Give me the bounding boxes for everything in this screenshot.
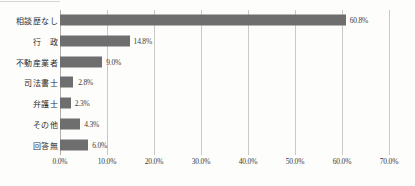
- bar-5: [60, 118, 80, 129]
- x-axis-tick-50: 50.0%: [286, 157, 304, 166]
- bar-row: 4.3%: [60, 114, 389, 135]
- x-axis-tick-labels: 0.0% 10.0% 20.0% 30.0% 40.0% 50.0% 60.0%…: [0, 157, 415, 171]
- chart-figure: 相談歴なし 行 政 不動産業者 司法書士 弁護士 その他 回答無: [0, 0, 415, 186]
- bar-value-4: 2.3%: [75, 99, 90, 108]
- bar-value-1: 14.8%: [134, 37, 152, 46]
- bar-3: [60, 77, 73, 88]
- bar-value-5: 4.3%: [84, 119, 99, 128]
- bar-row: 2.8%: [60, 72, 389, 93]
- bar-6: [60, 139, 88, 150]
- y-axis-tick-row: その他: [0, 114, 58, 135]
- x-axis-tick-20: 20.0%: [145, 157, 163, 166]
- x-axis-tick-30: 30.0%: [192, 157, 210, 166]
- x-axis-tick-60: 60.0%: [333, 157, 351, 166]
- scan-artifact-line: [0, 1, 60, 2]
- x-axis-tick-70: 70.0%: [380, 157, 398, 166]
- y-axis-label-1: 行 政: [2, 36, 58, 47]
- bar-4: [60, 98, 71, 109]
- bar-row: 2.3%: [60, 93, 389, 114]
- y-axis-label-6: 回答無: [2, 139, 58, 150]
- bar-value-0: 60.8%: [350, 16, 368, 25]
- x-axis-tick-10: 10.0%: [98, 157, 116, 166]
- y-axis-category-labels: 相談歴なし 行 政 不動産業者 司法書士 弁護士 その他 回答無: [0, 10, 58, 155]
- bar-row: 60.8%: [60, 10, 389, 31]
- y-axis-label-5: その他: [2, 118, 58, 129]
- y-axis-tick-row: 相談歴なし: [0, 10, 58, 31]
- y-axis-label-0: 相談歴なし: [2, 15, 58, 26]
- bar-1: [60, 36, 130, 47]
- bar-value-3: 2.8%: [78, 78, 93, 87]
- y-axis-tick-row: 司法書士: [0, 72, 58, 93]
- bar-row: 9.0%: [60, 51, 389, 72]
- y-axis-tick-row: 行 政: [0, 31, 58, 52]
- bar-row: 14.8%: [60, 31, 389, 52]
- x-axis-tick-0: 0.0%: [53, 157, 68, 166]
- bar-row: 6.0%: [60, 134, 389, 155]
- gridline-70: [389, 10, 390, 155]
- y-axis-tick-row: 弁護士: [0, 93, 58, 114]
- y-axis-tick-row: 不動産業者: [0, 51, 58, 72]
- plot-area: 60.8% 14.8% 9.0% 2.8% 2.3% 4.3% 6.0%: [60, 10, 389, 155]
- y-axis-label-2: 不動産業者: [2, 56, 58, 67]
- y-axis-tick-row: 回答無: [0, 134, 58, 155]
- x-axis-tick-40: 40.0%: [239, 157, 257, 166]
- bar-2: [60, 56, 102, 67]
- y-axis-label-4: 弁護士: [2, 98, 58, 109]
- bar-value-2: 9.0%: [106, 57, 121, 66]
- y-axis-label-3: 司法書士: [2, 77, 58, 88]
- bar-value-6: 6.0%: [92, 140, 107, 149]
- bar-0: [60, 15, 346, 26]
